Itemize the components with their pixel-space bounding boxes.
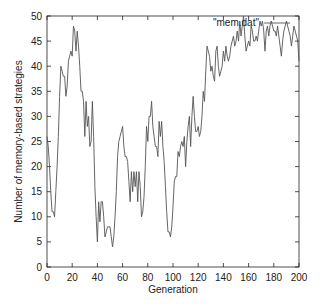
- x-tick-label: 20: [67, 272, 79, 283]
- y-tick-label: 45: [31, 36, 43, 47]
- x-axis-ticks: 020406080100120140160180200: [44, 16, 308, 283]
- plot-frame: [47, 16, 299, 267]
- x-tick-label: 120: [190, 272, 207, 283]
- line-chart: 05101520253035404550 0204060801001201401…: [0, 0, 321, 304]
- y-tick-label: 15: [31, 186, 43, 197]
- y-tick-label: 10: [31, 211, 43, 222]
- y-tick-label: 25: [31, 136, 43, 147]
- x-tick-label: 160: [240, 272, 257, 283]
- y-tick-label: 40: [31, 61, 43, 72]
- x-tick-label: 0: [44, 272, 50, 283]
- x-tick-label: 180: [265, 272, 282, 283]
- y-tick-label: 0: [36, 262, 42, 273]
- legend: "mem.dat": [213, 17, 290, 28]
- x-axis-label: Generation: [148, 284, 197, 295]
- y-tick-label: 20: [31, 161, 43, 172]
- x-tick-label: 200: [291, 272, 308, 283]
- y-tick-label: 30: [31, 111, 43, 122]
- y-axis-ticks: 05101520253035404550: [31, 11, 299, 273]
- y-axis-label: Number of memory-based strategies: [13, 60, 24, 222]
- series-line-mem-dat: [47, 16, 299, 247]
- x-tick-label: 40: [92, 272, 104, 283]
- x-tick-label: 140: [215, 272, 232, 283]
- x-tick-label: 60: [117, 272, 129, 283]
- y-tick-label: 5: [36, 236, 42, 247]
- y-tick-label: 35: [31, 86, 43, 97]
- y-tick-label: 50: [31, 11, 43, 22]
- legend-label: "mem.dat": [213, 17, 259, 28]
- x-tick-label: 100: [165, 272, 182, 283]
- x-tick-label: 80: [142, 272, 154, 283]
